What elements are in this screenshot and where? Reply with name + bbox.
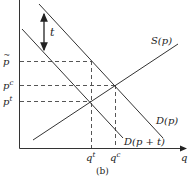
quantity-competitive-label: qc: [110, 151, 120, 163]
price-tax-label: pt: [3, 95, 12, 107]
price-competitive-label: pc: [3, 79, 13, 91]
price-tilde-label: p~: [3, 51, 10, 67]
demand-shifted-curve: [22, 29, 123, 138]
tax-gap-label: t: [50, 26, 55, 39]
demand-shifted-label: D(p + t): [123, 136, 165, 147]
quantity-tax-label: qt: [86, 151, 95, 163]
supply-demand-tax-diagram: t S(p) D(p) D(p + t) p~ pc pt qt qc q (b…: [0, 0, 192, 181]
supply-label: S(p): [151, 35, 172, 46]
dashed-guides: [20, 61, 116, 148]
figure-caption: (b): [96, 166, 109, 176]
demand-curve: [39, 4, 163, 138]
demand-label: D(p): [155, 115, 178, 126]
x-axis-label: q: [181, 152, 187, 163]
